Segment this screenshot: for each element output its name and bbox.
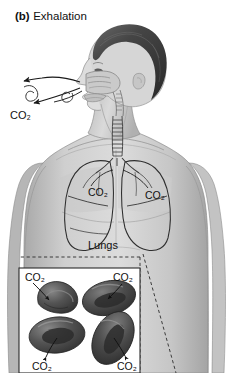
panel-caption: (b)Exhalation	[15, 10, 87, 22]
panel-letter: (b)	[15, 10, 30, 22]
panel-title-text: Exhalation	[33, 10, 87, 22]
lung-right-co2-label: CO₂	[145, 189, 165, 201]
inset-co2-top-left-label: CO₂	[25, 271, 45, 283]
inset-co2-bottom-left-label: CO₂	[32, 360, 52, 372]
lungs-label: Lungs	[88, 239, 118, 251]
red-blood-cells-inset: CO₂ CO₂ CO₂ CO₂	[19, 268, 143, 373]
inset-co2-bottom-right-label: CO₂	[117, 360, 137, 372]
lung-left-co2-label: CO₂	[88, 186, 108, 198]
inset-co2-top-right-label: CO₂	[113, 271, 133, 283]
airway-co2-label: CO₂	[10, 109, 31, 121]
exhalation-figure: (b)Exhalation	[0, 0, 232, 373]
